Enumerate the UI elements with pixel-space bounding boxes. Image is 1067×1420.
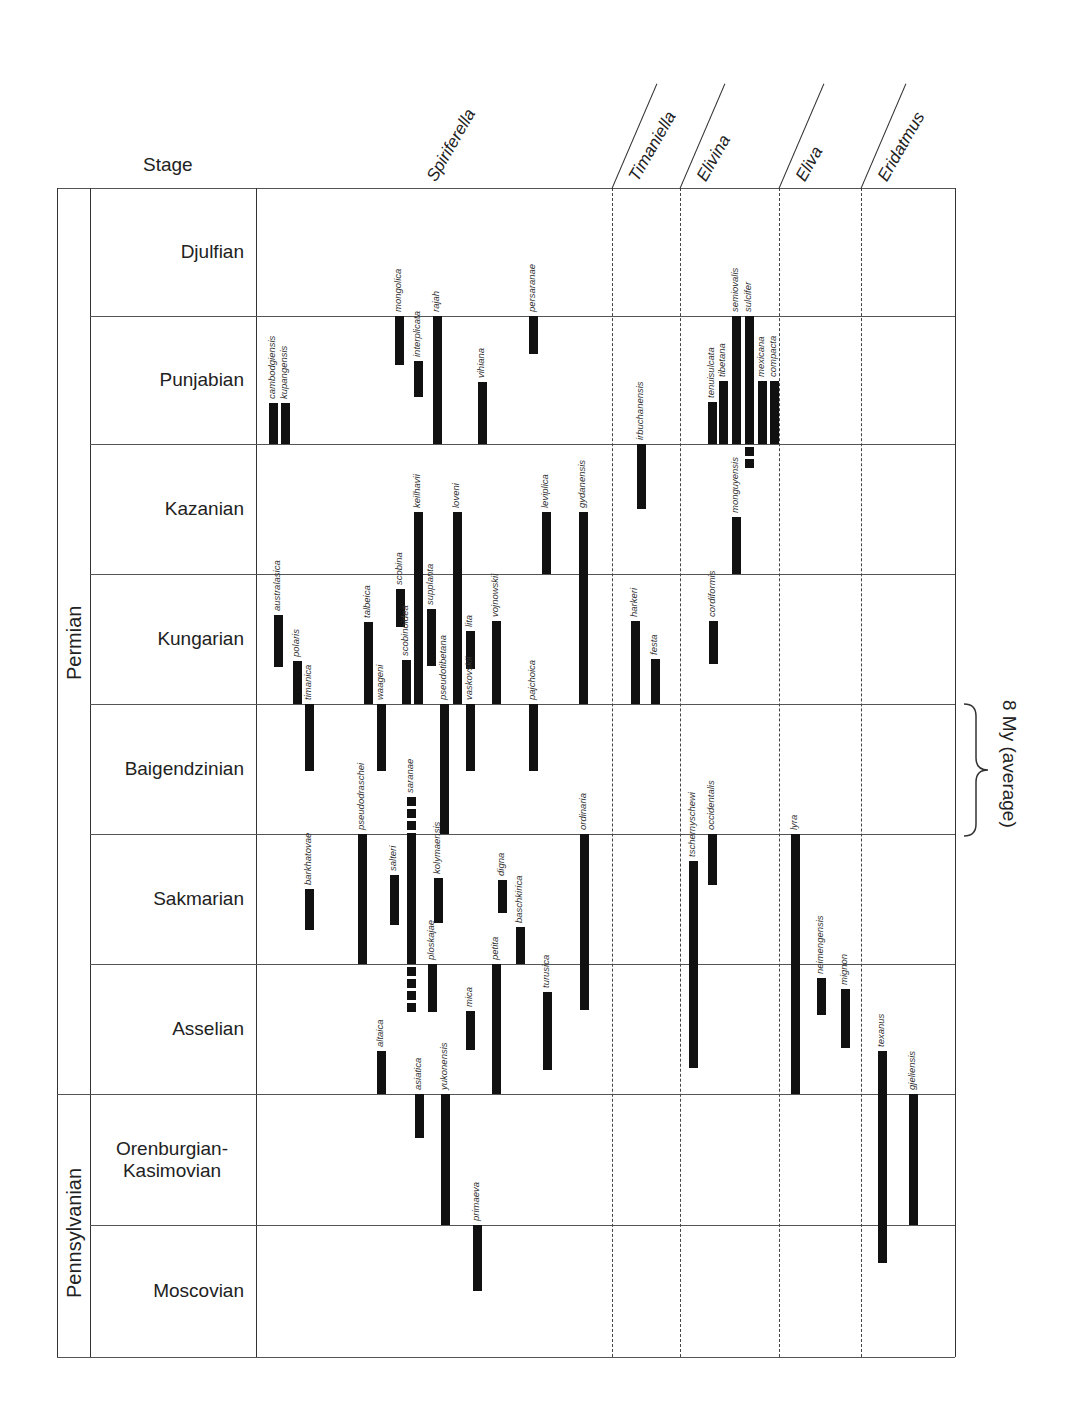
species-range-bar	[492, 621, 501, 704]
species-label-persaranae: persaranae	[527, 264, 537, 312]
species-label-salteri: salteri	[388, 846, 398, 871]
species-label-polaris: polaris	[291, 629, 301, 657]
species-range-bar	[305, 704, 314, 771]
species-range-bar-segment	[407, 991, 416, 1000]
species-label-vaskovskii: vaskovskii	[464, 657, 474, 700]
species-label-keilhavii: keilhavii	[412, 474, 422, 508]
species-range-bar	[732, 517, 741, 574]
stage-boundary-line	[90, 316, 955, 317]
frame-right-line	[955, 188, 956, 1357]
period-divider-line	[90, 188, 91, 1357]
species-range-bar	[758, 381, 767, 444]
species-range-bar	[293, 661, 302, 704]
species-label-scobina: scobina	[394, 552, 404, 585]
stage-boundary-line	[90, 704, 955, 705]
species-label-interplicata: interplicata	[412, 311, 422, 357]
species-label-pseudotibetana: pseudotibetana	[438, 635, 448, 700]
species-range-bar	[909, 1094, 918, 1225]
species-label-yukonensis: yukonensis	[439, 1042, 449, 1090]
species-range-bar	[878, 1051, 887, 1263]
stage-divider-line	[256, 188, 257, 1357]
species-range-bar	[395, 316, 404, 365]
species-label-talbeica: talbeica	[362, 585, 372, 618]
stage-boundary-line	[90, 444, 955, 445]
species-range-bar	[651, 659, 660, 704]
species-range-bar	[498, 880, 507, 913]
stage-label-baigendzinian: Baigendzinian	[100, 758, 244, 780]
species-label-pseudodraschei: pseudodraschei	[356, 763, 366, 830]
species-range-bar	[269, 403, 278, 444]
species-label-neimengensis: neimengensis	[815, 915, 825, 974]
species-label-kupangensis: kupangensis	[279, 346, 289, 399]
species-label-cordiformis: cordiformis	[707, 571, 717, 617]
species-range-bar	[466, 704, 475, 771]
species-range-bar	[427, 609, 436, 666]
species-label-irbuchanensis: irbuchanensis	[635, 381, 645, 440]
genus-divider-line	[861, 188, 862, 1357]
stage-label-asselian: Asselian	[100, 1018, 244, 1040]
species-range-bar-segment	[407, 979, 416, 988]
period-boundary-line	[57, 1094, 90, 1095]
species-range-bar-segment	[745, 459, 754, 468]
species-label-barkhatovae: barkhatovae	[303, 833, 313, 885]
stage-label-sakmarian: Sakmarian	[100, 888, 244, 910]
species-range-bar	[542, 512, 551, 574]
species-range-bar	[414, 512, 423, 704]
species-label-tibetana: tibetana	[717, 343, 727, 377]
species-label-gjeliensis: gjeliensis	[907, 1051, 917, 1090]
species-range-bar-segment	[407, 1003, 416, 1012]
stage-label-kungarian: Kungarian	[100, 628, 244, 650]
species-label-turusica: turusica	[541, 955, 551, 988]
species-range-bar	[709, 621, 718, 664]
species-label-tenuisulcata: tenuisulcata	[706, 347, 716, 398]
stage-boundary-line	[90, 574, 955, 575]
species-range-bar	[637, 444, 646, 509]
brace-icon	[960, 700, 990, 840]
species-range-bar	[274, 615, 283, 667]
species-range-bar	[407, 834, 416, 964]
species-range-bar	[516, 927, 525, 964]
species-range-bar	[281, 403, 290, 444]
species-range-bar	[414, 361, 423, 397]
stage-boundary-line	[90, 1094, 955, 1095]
species-range-bar	[529, 316, 538, 354]
species-label-baschkirica: baschkirica	[514, 875, 524, 923]
genus-label-timaniella: Timaniella	[625, 108, 681, 185]
stage-label-moscovian: Moscovian	[100, 1280, 244, 1302]
species-range-bar	[745, 316, 754, 444]
species-range-bar	[428, 964, 437, 1012]
species-range-bar	[732, 316, 741, 444]
species-range-bar	[473, 1225, 482, 1291]
frame-top-line	[57, 188, 955, 189]
species-label-mongolica: mongolica	[393, 269, 403, 312]
species-label-tschernyschewi: tschernyschewi	[687, 792, 697, 857]
species-range-bar	[402, 660, 411, 704]
species-label-mica: mica	[464, 987, 474, 1007]
species-range-bar	[466, 1011, 475, 1050]
genus-label-eridatmus: Eridatmus	[874, 109, 930, 185]
species-range-bar	[770, 381, 779, 444]
species-label-mignon: mignon	[839, 954, 849, 985]
species-range-bar	[434, 878, 443, 923]
species-label-texanus: texanus	[876, 1014, 886, 1047]
species-label-semiovalis: semiovalis	[730, 268, 740, 312]
species-label-scobinoidea: scobinoidea	[400, 605, 410, 656]
frame-left-line	[57, 188, 58, 1357]
stage-boundary-line	[90, 964, 955, 965]
stage-label-djulfian: Djulfian	[100, 241, 244, 263]
species-range-bar-segment	[407, 809, 416, 818]
period-label: Pennsylvanian	[63, 1168, 86, 1298]
stage-label-orenburgiankasimovian: Orenburgian- Kasimovian	[100, 1138, 244, 1182]
species-range-bar	[377, 1051, 386, 1094]
species-range-bar	[358, 834, 367, 964]
species-range-bar	[415, 1094, 424, 1138]
species-label-lita: lita	[464, 615, 474, 627]
period-label: Permian	[63, 606, 86, 680]
species-label-vihiana: vihiana	[476, 348, 486, 378]
species-range-bar-segment	[407, 821, 416, 830]
genus-divider-line	[779, 188, 780, 1357]
species-range-bar	[817, 978, 826, 1015]
species-label-mexicana: mexicana	[756, 336, 766, 377]
species-label-supplanta: supplanta	[425, 564, 435, 605]
species-label-leviplica: leviplica	[540, 474, 550, 508]
